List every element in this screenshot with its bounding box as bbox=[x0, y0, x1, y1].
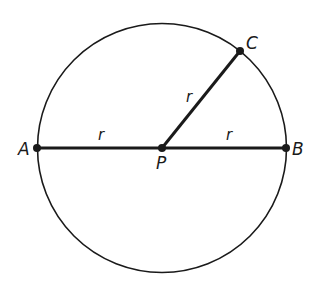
label-b: B bbox=[292, 139, 304, 159]
label-p: P bbox=[156, 153, 167, 173]
circle-diagram: A B P C r r r bbox=[0, 0, 315, 286]
point-a bbox=[33, 144, 41, 152]
label-r-ap: r bbox=[98, 126, 105, 144]
point-b bbox=[282, 144, 290, 152]
label-r-pc: r bbox=[186, 88, 193, 106]
point-p bbox=[158, 144, 166, 152]
label-c: C bbox=[246, 33, 258, 53]
label-r-pb: r bbox=[226, 126, 233, 144]
label-a: A bbox=[17, 139, 30, 159]
point-c bbox=[236, 47, 244, 55]
